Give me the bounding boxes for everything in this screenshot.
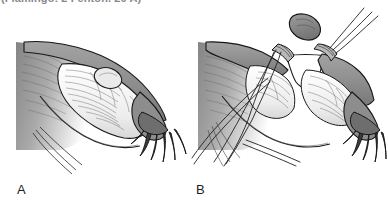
- panel-label-a: A: [17, 182, 26, 197]
- figure-root: (Flamingo: 2 Fenton. 20 A): [0, 0, 388, 208]
- excised-tube-segment: [289, 14, 320, 40]
- panel-label-b: B: [196, 182, 205, 197]
- panel-b: [192, 8, 386, 166]
- suture-tails-upper-right[interactable]: [330, 8, 378, 53]
- panel-a: [16, 41, 186, 174]
- anatomical-illustration: [0, 0, 388, 208]
